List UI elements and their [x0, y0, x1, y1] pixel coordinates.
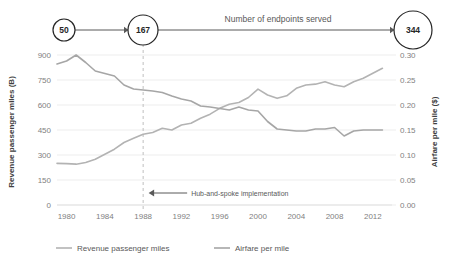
gridlines-group — [57, 55, 392, 205]
x-axis-tick-label: 2012 — [364, 212, 382, 221]
y-axis-right-title: Airfare per mile ($) — [430, 96, 439, 167]
x-axis-tick-label: 1988 — [134, 212, 152, 221]
y-axis-left-tick-label: 450 — [38, 126, 52, 135]
x-axis-tick-label: 1996 — [211, 212, 229, 221]
x-axis-tick-label: 2004 — [287, 212, 305, 221]
y-axis-right-tick-label: 0.25 — [400, 76, 416, 85]
y-axis-left-ticks: 0150300450600750900 — [38, 51, 52, 210]
chart-figure: 0150300450600750900 0.000.050.100.150.20… — [0, 0, 449, 266]
series-line-airfare-per-mile — [57, 55, 382, 136]
endpoint-node-value-2: 344 — [406, 25, 420, 35]
x-axis-ticks: 198019841988199219962000200420082012 — [58, 212, 383, 221]
legend-label-1: Airfare per mile — [235, 244, 290, 253]
endpoint-node-value-0: 50 — [59, 25, 69, 35]
y-axis-left-tick-label: 150 — [38, 176, 52, 185]
y-axis-left-tick-label: 300 — [38, 151, 52, 160]
y-axis-left-tick-label: 750 — [38, 76, 52, 85]
y-axis-left-tick-label: 600 — [38, 101, 52, 110]
annotation-group: Hub-and-spoke implementation — [149, 190, 289, 198]
flow-label: Number of endpoints served — [225, 14, 332, 24]
x-axis-tick-label: 2008 — [326, 212, 344, 221]
x-axis-tick-label: 2000 — [249, 212, 267, 221]
x-axis-tick-label: 1980 — [58, 212, 76, 221]
y-axis-right-tick-label: 0.10 — [400, 151, 416, 160]
y-axis-right-tick-label: 0.30 — [400, 51, 416, 60]
y-axis-left-tick-label: 900 — [38, 51, 52, 60]
y-axis-left-tick-label: 0 — [47, 201, 52, 210]
series-group — [57, 55, 382, 164]
endpoints-flow-group: 50167344Number of endpoints served — [53, 11, 432, 49]
y-axis-left-title: Revenue passenger miles (B) — [7, 76, 16, 188]
y-axis-right-tick-label: 0.20 — [400, 101, 416, 110]
endpoint-node-value-1: 167 — [136, 25, 150, 35]
x-axis-tick-label: 1984 — [96, 212, 114, 221]
x-axis-tick-label: 1992 — [173, 212, 191, 221]
y-axis-right-tick-label: 0.15 — [400, 126, 416, 135]
chart-svg: 0150300450600750900 0.000.050.100.150.20… — [0, 0, 449, 266]
y-axis-right-ticks: 0.000.050.100.150.200.250.30 — [392, 51, 416, 210]
y-axis-right-tick-label: 0.00 — [400, 201, 416, 210]
annotation-arrowhead — [149, 190, 155, 197]
annotation-label: Hub-and-spoke implementation — [191, 190, 288, 198]
legend-label-0: Revenue passenger miles — [77, 244, 170, 253]
series-line-revenue-passenger-miles — [57, 68, 382, 164]
y-axis-right-tick-label: 0.05 — [400, 176, 416, 185]
legend-group: Revenue passenger milesAirfare per mile — [56, 244, 290, 253]
